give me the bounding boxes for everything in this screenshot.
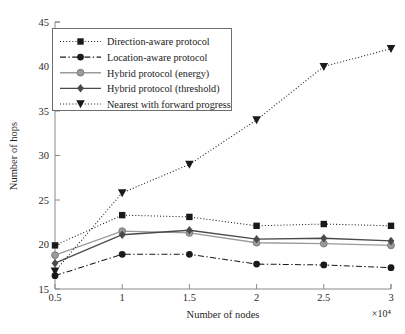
y-tick-label: 30 — [39, 150, 50, 161]
y-tick-label: 25 — [39, 195, 50, 206]
data-point-circle — [52, 252, 59, 259]
data-point-square — [253, 223, 259, 229]
data-point-circle — [320, 262, 327, 269]
chart-container: 15202530354045 0.511.522.53 Number of no… — [0, 0, 405, 334]
x-tick-label: 0.5 — [48, 292, 61, 303]
legend: Direction-aware protocolLocation-aware p… — [53, 29, 232, 111]
data-point-triangle-down — [185, 161, 194, 169]
series-location-aware-protocol — [52, 251, 395, 279]
y-tick-label: 45 — [39, 17, 50, 28]
x-tick-label: 3 — [388, 292, 393, 303]
data-point-square — [77, 38, 83, 44]
y-tick-label: 15 — [39, 284, 50, 295]
x-tick-label: 2 — [254, 292, 259, 303]
y-tick-label: 40 — [39, 61, 50, 72]
data-point-circle — [119, 251, 126, 258]
y-tick-label: 35 — [39, 106, 50, 117]
data-point-triangle-down — [320, 63, 329, 71]
legend-item-label: Hybrid protocol (threshold) — [107, 83, 220, 95]
x-tick-label: 1.5 — [183, 292, 196, 303]
y-tick-label: 20 — [39, 239, 50, 250]
series-line — [55, 254, 391, 275]
data-point-circle — [77, 69, 84, 76]
x-axis-exponent-label: ×10⁴ — [372, 308, 392, 319]
series-line — [55, 215, 391, 245]
chart-svg: 15202530354045 0.511.522.53 Number of no… — [0, 0, 405, 334]
data-point-triangle-down — [387, 45, 396, 53]
series-line — [55, 230, 391, 263]
x-tick-label: 1 — [120, 292, 125, 303]
data-point-square — [119, 212, 125, 218]
y-axis-title: Number of hops — [8, 122, 19, 190]
legend-item-label: Location-aware protocol — [107, 52, 208, 63]
x-tick-label: 2.5 — [317, 292, 330, 303]
data-point-square — [321, 221, 327, 227]
data-point-circle — [253, 261, 260, 268]
data-point-triangle-down — [252, 116, 261, 124]
data-point-square — [52, 242, 58, 248]
legend-item-label: Direction-aware protocol — [107, 36, 210, 47]
data-point-square — [388, 223, 394, 229]
data-point-triangle-down — [118, 189, 127, 197]
series-hybrid-protocol-threshold — [52, 226, 395, 267]
data-point-circle — [77, 54, 84, 61]
data-point-square — [186, 214, 192, 220]
data-point-circle — [388, 264, 395, 271]
data-point-circle — [186, 251, 193, 258]
x-axis-title: Number of nodes — [187, 309, 260, 320]
legend-item-label: Nearest with forward progress — [107, 99, 231, 110]
x-axis-tick-group: 0.511.522.53 — [48, 284, 393, 303]
legend-item-label: Hybrid protocol (energy) — [107, 68, 209, 80]
data-point-diamond — [52, 259, 59, 267]
